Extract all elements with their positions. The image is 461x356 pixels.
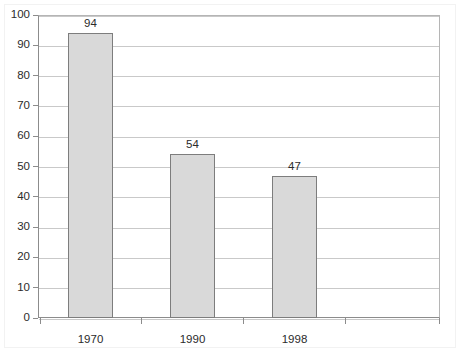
x-axis-category-label-1970: 1970	[51, 334, 131, 346]
gridline	[39, 319, 439, 320]
y-axis-tick-label: 90	[0, 40, 30, 52]
y-axis-tick-mark	[33, 196, 38, 197]
y-axis-tick-label: 30	[0, 221, 30, 233]
y-axis-tick-mark	[33, 318, 38, 319]
bar-1998	[272, 176, 317, 318]
y-axis-tick-mark	[33, 287, 38, 288]
x-axis-category-label-1998: 1998	[255, 334, 335, 346]
x-axis-tick-mark	[345, 318, 346, 324]
bar-chart: 0102030405060708090100945447197019901998	[0, 0, 461, 356]
bar-1970	[68, 33, 113, 318]
y-axis-tick-mark	[33, 15, 38, 16]
y-axis-tick-label: 60	[0, 130, 30, 142]
y-axis-tick-mark	[33, 166, 38, 167]
y-axis-tick-label: 100	[0, 9, 30, 21]
bar-value-label-1998: 47	[252, 161, 337, 173]
y-axis-tick-label: 40	[0, 191, 30, 203]
bar-value-label-1990: 54	[150, 139, 235, 151]
y-axis-tick-label: 0	[0, 312, 30, 324]
gridline	[39, 16, 439, 17]
bar-value-label-1970: 94	[48, 18, 133, 30]
y-axis-tick-mark	[33, 105, 38, 106]
y-axis-tick-mark	[33, 136, 38, 137]
y-axis-tick-label: 80	[0, 70, 30, 82]
y-axis-tick-label: 10	[0, 282, 30, 294]
y-axis-tick-label: 50	[0, 161, 30, 173]
x-axis-tick-mark	[439, 318, 440, 324]
y-axis-tick-mark	[33, 45, 38, 46]
x-axis-tick-mark	[243, 318, 244, 324]
bar-1990	[170, 154, 215, 318]
x-axis-tick-mark	[40, 318, 41, 324]
y-axis-tick-label: 20	[0, 252, 30, 264]
y-axis-tick-mark	[33, 227, 38, 228]
x-axis-tick-mark	[141, 318, 142, 324]
y-axis-tick-label: 70	[0, 100, 30, 112]
x-axis-category-label-1990: 1990	[153, 334, 233, 346]
y-axis-tick-mark	[33, 75, 38, 76]
y-axis-tick-mark	[33, 257, 38, 258]
